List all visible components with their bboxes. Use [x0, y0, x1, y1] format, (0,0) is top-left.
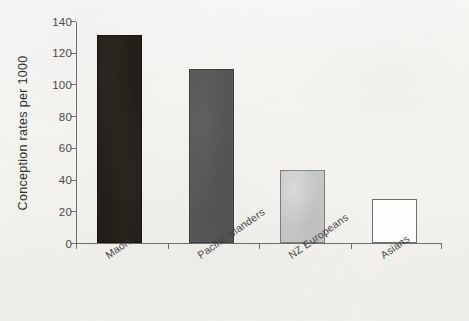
y-tick-label: 0	[65, 238, 72, 250]
x-tick-mark	[168, 244, 169, 249]
bar	[372, 199, 417, 243]
y-tick: 20	[76, 211, 77, 212]
x-tick-mark	[259, 244, 260, 249]
x-tick-mark	[76, 244, 77, 249]
y-tick-label: 40	[59, 174, 72, 186]
y-tick: 80	[76, 116, 77, 117]
y-tick-label: 20	[59, 206, 72, 218]
y-axis-title: Conception rates per 1000	[14, 22, 32, 244]
y-tick: 40	[76, 180, 77, 181]
y-tick: 140	[76, 21, 77, 22]
bar-chart-figure: Conception rates per 1000 02040608010012…	[0, 0, 469, 321]
y-tick: 100	[76, 84, 77, 85]
y-tick-label: 120	[52, 47, 72, 59]
bar	[189, 69, 234, 243]
bar	[97, 35, 142, 243]
y-tick: 60	[76, 148, 77, 149]
y-tick: 120	[76, 53, 77, 54]
y-tick-label: 80	[59, 111, 72, 123]
y-tick-label: 140	[52, 16, 72, 28]
y-axis-title-text: Conception rates per 1000	[16, 56, 30, 211]
x-tick-mark	[441, 244, 442, 249]
y-tick-label: 60	[59, 142, 72, 154]
x-tick-mark	[351, 244, 352, 249]
y-tick-label: 100	[52, 79, 72, 91]
